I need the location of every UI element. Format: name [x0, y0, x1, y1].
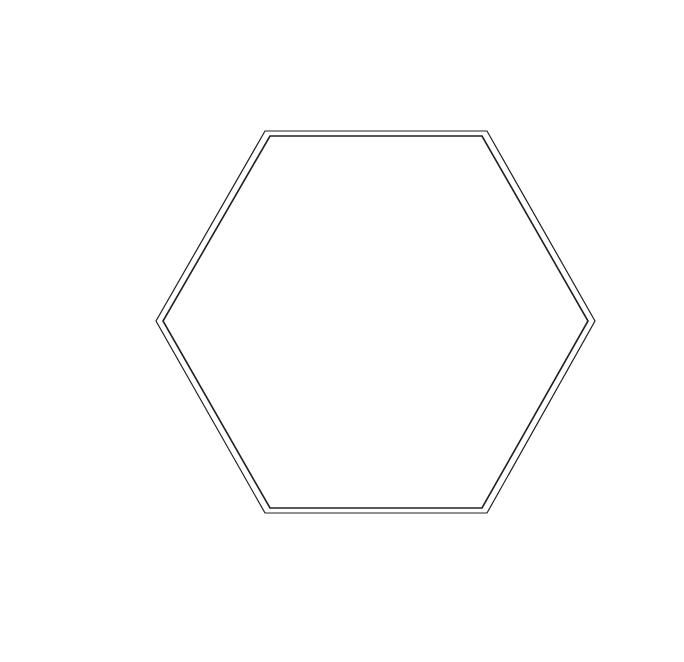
puzzle-board	[0, 0, 684, 662]
hex-outer-border	[156, 131, 595, 513]
hex-border	[163, 136, 588, 508]
